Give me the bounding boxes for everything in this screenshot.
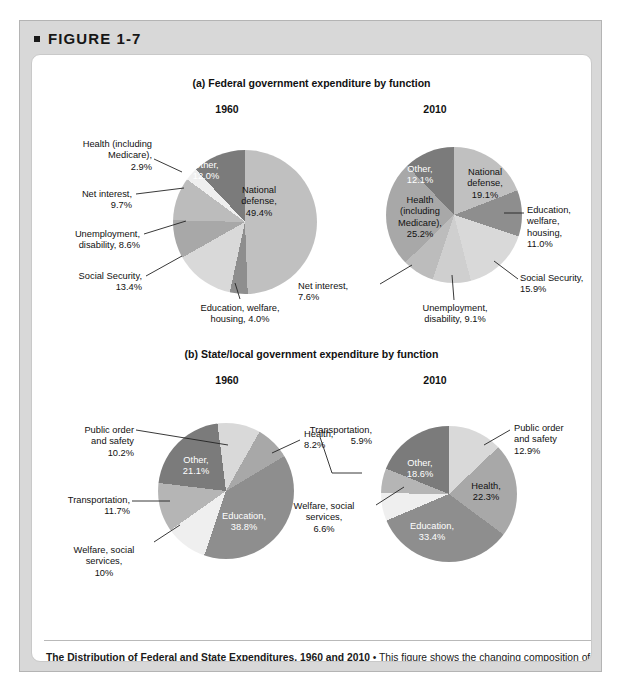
panel-a-year-1960: 1960 [192, 103, 262, 115]
pie-b2-label-welfare: Welfare, social services, 6.6% [274, 501, 374, 535]
pie-a2-label-health: Health (including Medicare), 25.2% [389, 195, 451, 241]
pie-b2-label-education: Education, 33.4% [400, 521, 464, 544]
panel-a-year-2010: 2010 [400, 103, 470, 115]
figure-caption: The Distribution of Federal and State Ex… [46, 651, 592, 662]
pie-a1-label-net-interest: Net interest, 9.7% [46, 189, 132, 212]
caption-separator: • [370, 652, 379, 662]
pie-a2-label-other: Other, 12.1% [398, 164, 442, 187]
panel-a-title: (a) Federal government expenditure by fu… [32, 77, 591, 89]
pie-b2-label-other: Other, 18.6% [396, 458, 444, 481]
pie-a1-label-social-security: Social Security, 13.4% [46, 271, 142, 294]
pie-a1-label-health: Health (including Medicare), 2.9% [46, 139, 152, 173]
pie-b2-label-health: Health, 22.3% [460, 481, 512, 504]
pie-state-1960 [158, 423, 294, 559]
panel-b-year-1960: 1960 [192, 374, 262, 386]
pie-a2-label-net-interest: Net interest, 7.6% [298, 281, 378, 304]
square-bullet-icon [34, 36, 40, 42]
pie-b2-label-transportation: Transportation, 5.9% [276, 425, 372, 448]
pie-b1-label-education: Education, 38.8% [210, 511, 278, 534]
pie-a2-label-national-defense: National defense, 19.1% [456, 167, 514, 201]
pie-a1-label-national-defense: National defense, 49.4% [228, 185, 290, 219]
pie-a1-label-education: Education, welfare, housing, 4.0% [174, 303, 306, 326]
figure-header: FIGURE 1-7 [20, 21, 601, 55]
panel-b-year-2010: 2010 [400, 374, 470, 386]
figure-card: (a) Federal government expenditure by fu… [31, 54, 592, 662]
pie-b2-label-public-order: Public order and safety 12.9% [514, 423, 584, 457]
figure-page: FIGURE 1-7 (a) Federal government expend… [0, 0, 620, 694]
pie-b1-label-welfare: Welfare, social services, 10% [54, 545, 154, 579]
pie-a2-label-education: Education, welfare, housing, 11.0% [527, 205, 587, 251]
caption-title: The Distribution of Federal and State Ex… [46, 652, 370, 662]
caption-divider [44, 640, 592, 641]
pie-b1-label-transportation: Transportation, 11.7% [34, 495, 130, 518]
pie-a1-label-other: Other, 12.0% [184, 160, 228, 183]
pie-b1-label-other: Other, 21.1% [172, 455, 220, 478]
figure-number-label: FIGURE 1-7 [48, 30, 142, 47]
pie-b1-label-public-order: Public order and safety 10.2% [44, 425, 134, 459]
figure-frame: FIGURE 1-7 (a) Federal government expend… [19, 20, 602, 672]
panel-b-title: (b) State/local government expenditure b… [32, 348, 591, 360]
pie-a2-label-social-security: Social Security, 15.9% [520, 273, 592, 296]
pie-a2-label-unemployment: Unemployment, disability, 9.1% [394, 303, 516, 326]
pie-a1-label-unemployment: Unemployment, disability, 8.6% [36, 229, 140, 252]
